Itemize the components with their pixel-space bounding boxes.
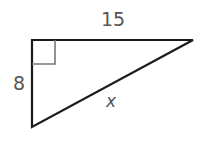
left-leg-label: 8 [13, 74, 25, 93]
top-leg-label: 15 [101, 10, 125, 29]
triangle-outline [32, 40, 193, 127]
hypotenuse-label: x [106, 93, 116, 110]
right-angle-marker [32, 40, 55, 64]
